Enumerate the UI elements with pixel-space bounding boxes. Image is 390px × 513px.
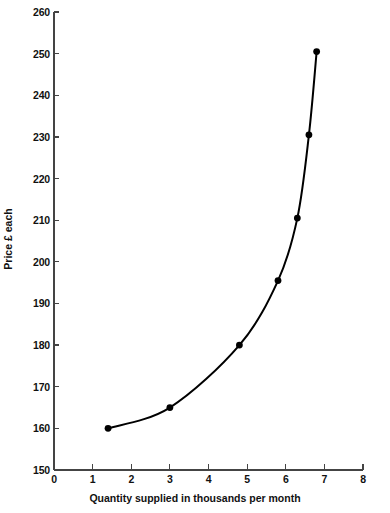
plot-area <box>0 0 390 513</box>
y-tick-label: 220 <box>33 173 50 185</box>
y-tick-label: 260 <box>33 6 50 18</box>
x-tick-label: 8 <box>360 473 366 485</box>
y-tick-label: 150 <box>33 464 50 476</box>
y-tick-label: 180 <box>33 339 50 351</box>
x-tick-label: 5 <box>244 473 250 485</box>
x-tick-label: 2 <box>128 473 134 485</box>
y-tick-label: 230 <box>33 131 50 143</box>
series-curve <box>108 52 317 429</box>
x-axis-title: Quantity supplied in thousands per month <box>0 492 390 504</box>
x-tick-label: 4 <box>206 473 212 485</box>
y-tick-label: 190 <box>33 297 50 309</box>
y-tick-label: 160 <box>33 422 50 434</box>
y-tick-label: 210 <box>33 214 50 226</box>
axis-ticks <box>54 12 363 470</box>
x-tick-label: 3 <box>167 473 173 485</box>
supply-curve-chart: 150160170180190200210220230240250260 012… <box>0 0 390 513</box>
x-tick-label: 1 <box>90 473 96 485</box>
x-tick-label: 7 <box>322 473 328 485</box>
y-tick-label: 250 <box>33 48 50 60</box>
y-axis-title: Price £ each <box>2 179 14 299</box>
x-tick-label: 6 <box>283 473 289 485</box>
y-tick-label: 170 <box>33 381 50 393</box>
y-tick-label: 200 <box>33 256 50 268</box>
x-tick-label: 0 <box>51 473 57 485</box>
y-tick-label: 240 <box>33 89 50 101</box>
axis-lines <box>54 12 363 470</box>
